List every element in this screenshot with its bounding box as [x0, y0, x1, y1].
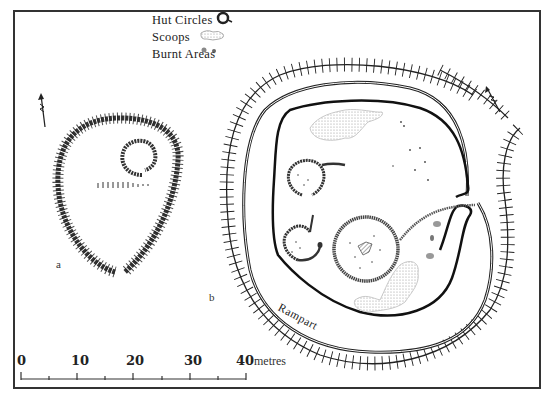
scale-unit: metres [254, 354, 286, 369]
scale-tick-20: 20 [126, 353, 144, 368]
legend-burnt-areas: Burnt Areas [152, 46, 215, 63]
plan-label-a: a [56, 258, 61, 270]
hut-circle [288, 160, 345, 195]
scoop-south [354, 262, 418, 312]
scale-bar [21, 372, 246, 380]
legend-hut-circles: Hut Circles [152, 12, 215, 29]
hut-circle-large [334, 217, 398, 281]
legend-scoops: Scoops [152, 29, 215, 46]
scale-tick-10: 10 [71, 353, 89, 368]
scale-tick-0: 0 [17, 353, 26, 368]
site-plans [0, 0, 552, 405]
north-arrow-icon [38, 93, 45, 127]
legend: Hut Circles Scoops Burnt Areas [152, 12, 215, 63]
scale-tick-30: 30 [184, 353, 202, 368]
scoop-north [310, 110, 383, 141]
hut-circle [284, 215, 320, 260]
plan-label-b: b [209, 291, 215, 303]
inner-bank [273, 101, 471, 316]
hut-circle-icon [218, 13, 232, 23]
enclosure-a [58, 118, 178, 272]
scale-tick-40: 40 [236, 353, 254, 368]
